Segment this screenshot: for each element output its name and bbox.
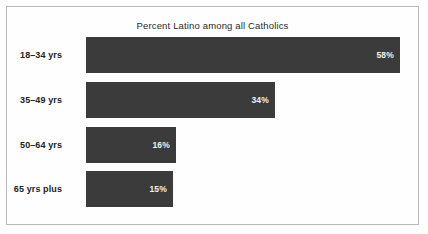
bar-row: 65 yrs plus 15% [7,171,418,207]
bar-category-label: 18–34 yrs [20,37,62,73]
bar-value-label: 16% [152,127,170,163]
bar: 15% [86,171,173,207]
bar-value-label: 34% [251,82,269,118]
plot-area: 18–34 yrs 58% 35–49 yrs 34% 50–64 yrs 16… [7,7,418,224]
bar: 58% [86,37,400,73]
bar-category-label: 50–64 yrs [20,127,62,163]
chart-screenshot: Percent Latino among all Catholics 18–34… [0,0,428,234]
bar-value-label: 15% [149,171,167,207]
bar-category-label: 65 yrs plus [14,171,62,207]
chart-frame: Percent Latino among all Catholics 18–34… [6,6,419,225]
bar-row: 18–34 yrs 58% [7,37,418,73]
bar-row: 50–64 yrs 16% [7,127,418,163]
bar: 16% [86,127,176,163]
bar-value-label: 58% [376,37,394,73]
bar-category-label: 35–49 yrs [20,82,62,118]
bar: 34% [86,82,275,118]
bar-row: 35–49 yrs 34% [7,82,418,118]
